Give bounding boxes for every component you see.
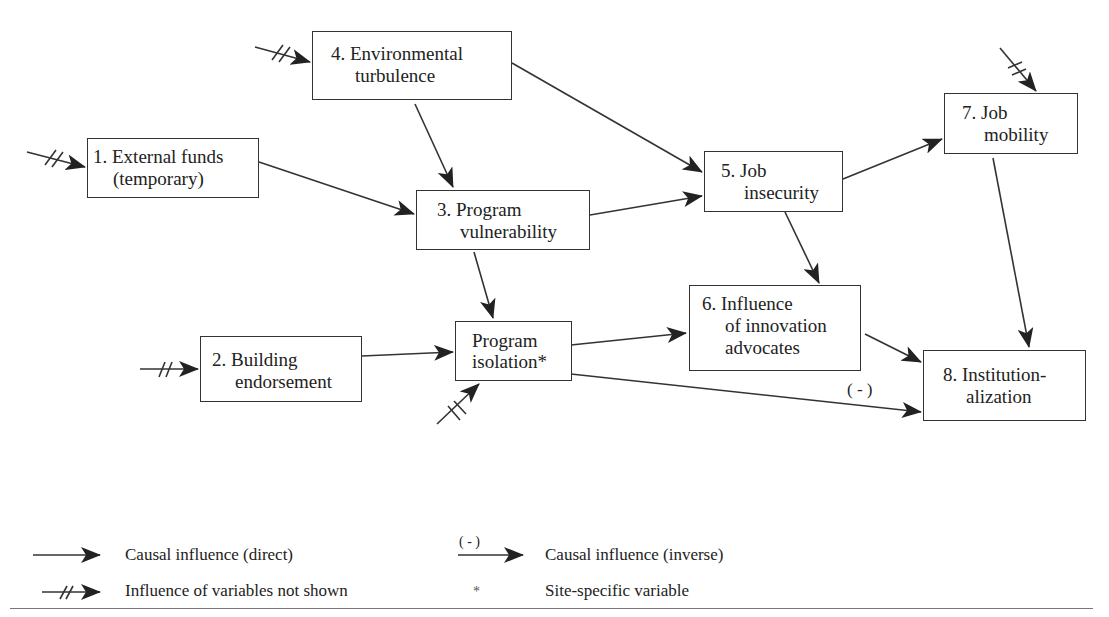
node-label: mobility bbox=[984, 124, 1048, 145]
legend-inverse-label: Causal influence (inverse) bbox=[545, 545, 723, 565]
node-building-endorsement: 2. Building endorsement bbox=[200, 336, 362, 402]
edge-4-to-5 bbox=[512, 63, 702, 172]
node-label: 8. Institution- bbox=[943, 364, 1046, 385]
edge-3-to-isolation bbox=[474, 252, 493, 318]
edge-5-to-7 bbox=[843, 139, 942, 179]
node-label: insecurity bbox=[744, 182, 819, 203]
external-influence-7 bbox=[1000, 48, 1036, 91]
edge-2-to-isolation bbox=[362, 352, 453, 356]
legend-not-shown-label: Influence of variables not shown bbox=[125, 581, 348, 601]
node-label: (temporary) bbox=[113, 168, 204, 189]
legend-direct-label: Causal influence (direct) bbox=[125, 545, 293, 565]
node-job-insecurity: 5. Job insecurity bbox=[704, 151, 843, 212]
external-influence-4 bbox=[255, 45, 310, 62]
node-institutionalization: 8. Institution- alization bbox=[923, 350, 1086, 421]
edge-isolation-to-6 bbox=[571, 333, 686, 345]
node-label: 1. External funds bbox=[93, 146, 223, 167]
inverse-edge-label: ( - ) bbox=[847, 380, 872, 400]
node-label: 2. Building bbox=[212, 349, 298, 370]
bottom-divider bbox=[10, 608, 1093, 609]
node-label: vulnerability bbox=[460, 221, 557, 242]
node-label: 5. Job bbox=[721, 160, 766, 181]
node-label: Program bbox=[472, 330, 537, 351]
node-label: of innovation bbox=[725, 315, 827, 336]
node-label: isolation* bbox=[472, 351, 547, 372]
node-label: advocates bbox=[725, 337, 800, 358]
legend-inverse-mark: ( - ) bbox=[459, 534, 480, 550]
node-label: 7. Job bbox=[962, 102, 1007, 123]
external-influence-1 bbox=[27, 150, 85, 167]
edge-4-to-3 bbox=[415, 104, 453, 187]
node-label: endorsement bbox=[235, 371, 332, 392]
legend-site-specific-label: Site-specific variable bbox=[545, 581, 689, 601]
node-program-isolation: Program isolation* bbox=[455, 321, 572, 381]
edge-7-to-8 bbox=[993, 158, 1029, 347]
legend-not-shown-arrow bbox=[42, 586, 100, 599]
edges-layer bbox=[0, 0, 1109, 617]
node-label: 6. Influence bbox=[702, 293, 793, 314]
edge-5-to-6 bbox=[785, 212, 819, 283]
legend-asterisk-symbol: * bbox=[473, 584, 480, 600]
node-innovation-advocates: 6. Influence of innovation advocates bbox=[689, 285, 861, 371]
node-label: 4. Environmental bbox=[331, 43, 463, 64]
node-job-mobility: 7. Job mobility bbox=[944, 93, 1078, 154]
external-influence-2 bbox=[140, 362, 198, 377]
node-label: alization bbox=[966, 386, 1031, 407]
edge-1-to-3 bbox=[259, 162, 414, 214]
node-environmental-turbulence: 4. Environmental turbulence bbox=[312, 31, 512, 100]
edge-3-to-5 bbox=[590, 196, 702, 215]
node-label: 3. Program bbox=[437, 199, 521, 220]
node-external-funds: 1. External funds (temporary) bbox=[87, 138, 259, 198]
external-influence-isolation bbox=[437, 384, 479, 424]
node-label: turbulence bbox=[355, 65, 435, 86]
node-program-vulnerability: 3. Program vulnerability bbox=[416, 190, 590, 250]
edge-6-to-8 bbox=[865, 334, 921, 362]
